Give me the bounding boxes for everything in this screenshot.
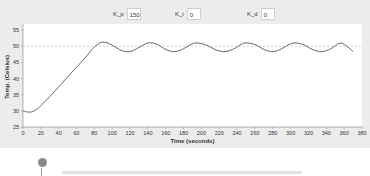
x-tick-label: 160 <box>161 130 170 136</box>
y-tick-label: 50 <box>13 43 19 49</box>
x-tick-label: 200 <box>197 130 206 136</box>
x-tick-label: 260 <box>250 130 259 136</box>
x-tick-label: 20 <box>38 130 44 136</box>
x-tick-label: 0 <box>21 130 24 136</box>
x-tick-label: 320 <box>304 130 313 136</box>
x-tick-label: 100 <box>108 130 117 136</box>
x-tick-label: 140 <box>143 130 152 136</box>
x-tick-label: 340 <box>322 130 331 136</box>
timeline-connector <box>41 168 42 176</box>
y-tick-label: 40 <box>13 76 19 82</box>
plot-area <box>23 24 362 127</box>
x-tick-label: 300 <box>286 130 295 136</box>
x-tick-label: 60 <box>73 130 79 136</box>
x-tick-label: 280 <box>268 130 277 136</box>
x-tick-label: 220 <box>215 130 224 136</box>
y-tick-label: 55 <box>13 27 19 33</box>
x-tick-label: 120 <box>125 130 134 136</box>
temperature-chart: 2530354045505502040608010012014016018020… <box>0 0 370 148</box>
y-tick-label: 35 <box>13 92 19 98</box>
x-tick-label: 40 <box>56 130 62 136</box>
footer-caption <box>62 171 302 174</box>
y-tick-label: 30 <box>13 108 19 114</box>
y-tick-label: 45 <box>13 59 19 65</box>
y-axis-label: Temp. (Celsius) <box>4 55 10 99</box>
x-tick-label: 360 <box>340 130 349 136</box>
x-tick-label: 180 <box>179 130 188 136</box>
x-tick-label: 380 <box>357 130 366 136</box>
x-tick-label: 80 <box>91 130 97 136</box>
timeline-node-icon[interactable] <box>38 158 47 167</box>
x-tick-label: 240 <box>233 130 242 136</box>
y-tick-label: 25 <box>13 124 19 130</box>
x-axis-label: Time (seconds) <box>171 138 215 144</box>
